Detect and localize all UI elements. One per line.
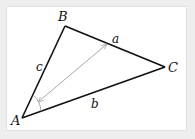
vertex-label-b: B (57, 9, 68, 24)
double-arrow-icon (38, 44, 107, 102)
triangle-diagram: B A C a b c (0, 0, 195, 139)
side-label-b: b (91, 97, 99, 111)
angle-arc-a-icon (33, 95, 41, 111)
vertex-label-a: A (10, 113, 20, 128)
side-label-c: c (36, 60, 43, 74)
vertex-label-c: C (168, 60, 178, 75)
side-label-a: a (112, 32, 119, 46)
